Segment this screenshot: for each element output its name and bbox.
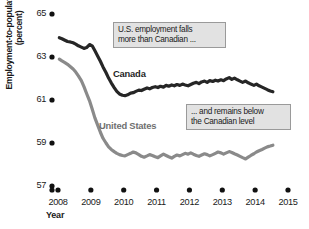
x-tick-dot <box>285 187 290 192</box>
chart-figure: Employment-to-population ratio (percent)… <box>0 0 309 229</box>
y-tick-label: 61 <box>26 94 46 104</box>
y-tick-dot <box>49 54 54 59</box>
series-label-united-states: United States <box>99 120 156 131</box>
x-tick-markers <box>49 187 290 192</box>
x-axis-label: Year <box>46 210 64 220</box>
y-tick-dot <box>49 140 54 145</box>
x-tick-label: 2008 <box>44 197 72 207</box>
x-tick-label: 2014 <box>241 197 269 207</box>
x-tick-dot <box>121 187 126 192</box>
y-tick-label: 57 <box>26 180 46 190</box>
y-tick-label: 63 <box>26 51 46 61</box>
annotation-callout-remains-below: ... and remains below the Canadian level <box>186 104 291 130</box>
origin-dot <box>49 187 54 192</box>
x-tick-label: 2013 <box>208 197 236 207</box>
series-lines <box>59 38 273 159</box>
x-tick-label: 2011 <box>143 197 171 207</box>
y-tick-label: 65 <box>26 8 46 18</box>
x-tick-dot <box>253 187 258 192</box>
x-tick-label: 2012 <box>175 197 203 207</box>
x-tick-dot <box>88 187 93 192</box>
x-tick-dot <box>55 187 60 192</box>
x-tick-dot <box>154 187 159 192</box>
y-tick-markers <box>49 11 54 188</box>
annotation-callout-us-falls: U.S. employment falls more than Canadian… <box>113 22 226 48</box>
x-tick-label: 2015 <box>274 197 302 207</box>
y-tick-dot <box>49 97 54 102</box>
x-tick-label: 2009 <box>77 197 105 207</box>
y-tick-dot <box>49 11 54 16</box>
y-tick-label: 59 <box>26 137 46 147</box>
x-tick-label: 2010 <box>110 197 138 207</box>
x-tick-dot <box>220 187 225 192</box>
series-label-canada: Canada <box>113 68 146 79</box>
x-tick-dot <box>187 187 192 192</box>
